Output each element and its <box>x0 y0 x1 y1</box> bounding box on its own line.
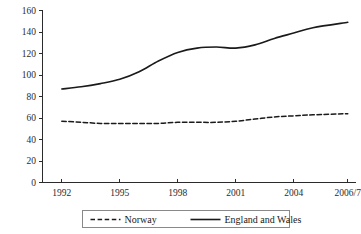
y-tick-label: 140 <box>22 27 37 37</box>
series-group <box>62 22 348 123</box>
series-line-norway <box>62 114 348 124</box>
y-tick-label: 80 <box>27 92 37 102</box>
legend-label-england-and-wales: England and Wales <box>225 214 302 225</box>
y-tick-label: 40 <box>27 135 37 145</box>
x-axis-ticks: 199219951998200120042006/7 <box>52 179 361 198</box>
x-tick-label: 2001 <box>226 188 245 198</box>
line-chart: 020406080100120140160 199219951998200120… <box>0 0 361 234</box>
chart-legend: NorwayEngland and Wales <box>83 211 302 228</box>
chart-figure: 020406080100120140160 199219951998200120… <box>0 0 361 234</box>
series-line-england-and-wales <box>62 22 348 89</box>
x-tick-label: 2004 <box>284 188 303 198</box>
y-tick-label: 160 <box>22 6 37 16</box>
y-tick-label: 120 <box>22 49 37 59</box>
x-tick-label: 1995 <box>110 188 129 198</box>
y-tick-label: 100 <box>22 70 37 80</box>
x-tick-label: 2006/7 <box>335 188 361 198</box>
y-tick-label: 20 <box>27 156 37 166</box>
y-tick-label: 0 <box>31 178 36 188</box>
x-tick-label: 1992 <box>52 188 71 198</box>
legend-label-norway: Norway <box>125 214 157 225</box>
y-axis-ticks: 020406080100120140160 <box>22 6 43 188</box>
x-tick-label: 1998 <box>168 188 187 198</box>
y-tick-label: 60 <box>27 113 37 123</box>
